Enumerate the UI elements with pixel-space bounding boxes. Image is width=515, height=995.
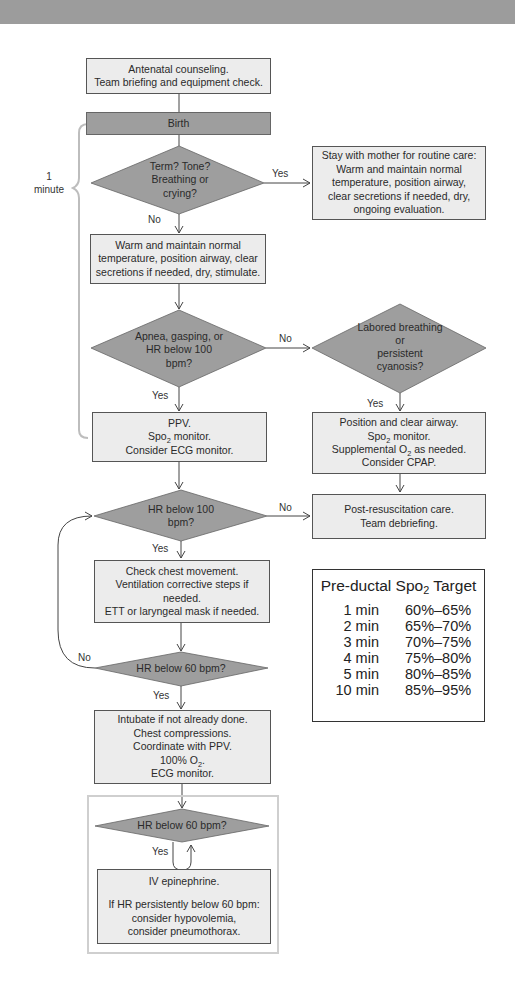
antenatal-counseling-box: Antenatal counseling. Team briefing and … — [86, 58, 271, 94]
box-text: consider pneumothorax. — [128, 925, 241, 938]
box-text: Warm and maintain normal — [336, 163, 462, 176]
decision-text: Apnea, gasping, or — [135, 330, 223, 343]
box-text: Spo2 monitor. — [148, 430, 211, 443]
decision-text: bpm? — [168, 516, 194, 529]
text-part: monitor. — [171, 430, 211, 442]
edge-label-no: No — [78, 652, 91, 663]
position-airway-box: Position and clear airway. Spo2 monitor.… — [312, 412, 486, 474]
decision-text: HR below 60 bpm? — [136, 662, 225, 675]
one-minute-bracket — [73, 124, 88, 438]
box-text: Ventilation corrective steps if — [115, 578, 248, 591]
edge-label-yes: Yes — [152, 846, 168, 857]
decision-apnea: Apnea, gasping, or HR below 100 bpm? — [119, 328, 239, 372]
range-cell: 75%–80% — [379, 650, 471, 666]
text-part: Spo — [367, 430, 386, 442]
time-cell: 5 min — [313, 666, 379, 682]
box-text: Spo2 monitor. — [367, 430, 430, 443]
box-text: Team briefing and equipment check. — [94, 76, 263, 89]
box-text: Antenatal counseling. — [128, 63, 228, 76]
text-part: Supplemental O — [332, 443, 407, 455]
box-text: 100% O2. — [160, 754, 205, 767]
routine-care-box: Stay with mother for routine care: Warm … — [312, 146, 486, 220]
edge-label-no: No — [279, 333, 292, 344]
range-cell: 70%–75% — [379, 634, 471, 650]
box-text: Stay with mother for routine care: — [322, 149, 477, 162]
box-text: Consider ECG monitor. — [126, 444, 234, 457]
check-chest-box: Check chest movement. Ventilation correc… — [94, 560, 270, 623]
ppv-box: PPV. Spo2 monitor. Consider ECG monitor. — [92, 412, 267, 462]
time-cell: 1 min — [313, 602, 379, 618]
decision-labored: Labored breathing or persistent cyanosis… — [345, 318, 455, 376]
warm-stimulate-box: Warm and maintain normal temperature, po… — [90, 234, 266, 284]
box-text: Supplemental O2 as needed. — [332, 443, 466, 456]
box-text: ETT or laryngeal mask if needed. — [105, 605, 259, 618]
box-text: Team debriefing. — [360, 517, 438, 530]
edge-label-yes: Yes — [152, 390, 168, 401]
decision-text: persistent — [377, 347, 423, 360]
box-text: needed. — [163, 592, 201, 605]
box-text: Coordinate with PPV. — [133, 740, 232, 753]
box-text: Check chest movement. — [126, 565, 239, 578]
box-text: ECG monitor. — [151, 767, 214, 780]
birth-box: Birth — [86, 112, 271, 135]
box-text: PPV. — [168, 417, 191, 430]
intubate-compressions-box: Intubate if not already done. Chest comp… — [94, 710, 271, 784]
time-cell: 3 min — [313, 634, 379, 650]
decision-hr60: HR below 60 bpm? — [121, 661, 241, 677]
table-row: 10 min85%–95% — [313, 682, 484, 698]
decision-text: Breathing or — [151, 173, 208, 186]
box-text: If HR persistently below 60 bpm: — [108, 898, 259, 911]
box-text: Chest compressions. — [133, 727, 231, 740]
range-cell: 65%–70% — [379, 618, 471, 634]
epinephrine-box: IV epinephrine. If HR persistently below… — [97, 869, 271, 944]
time-cell: 2 min — [313, 618, 379, 634]
decision-text: or — [395, 334, 404, 347]
box-text: temperature, position airway, — [332, 176, 466, 189]
decision-text: HR below 60 bpm? — [137, 819, 226, 832]
text-part: monitor. — [390, 430, 430, 442]
decision-text: Term? Tone? — [150, 160, 211, 173]
decision-hr100: HR below 100 bpm? — [131, 502, 231, 530]
range-cell: 80%–85% — [379, 666, 471, 682]
table-row: 1 min60%–65% — [313, 602, 484, 618]
time-cell: 4 min — [313, 650, 379, 666]
decision-text: HR below 100 — [146, 343, 212, 356]
edge-label-no: No — [279, 502, 292, 513]
text-part: . — [202, 754, 205, 766]
decision-text: cyanosis? — [377, 360, 424, 373]
text-part: as needed. — [411, 443, 466, 455]
box-text: consider hypovolemia, — [132, 912, 236, 925]
title-part: Pre-ductal Spo — [321, 577, 424, 594]
table-row: 2 min65%–70% — [313, 618, 484, 634]
box-text: IV epinephrine. — [149, 875, 220, 888]
time-cell: 10 min — [313, 682, 379, 698]
table-row: 3 min70%–75% — [313, 634, 484, 650]
text-part: 100% O — [160, 754, 198, 766]
decision-text: crying? — [163, 187, 197, 200]
range-cell: 60%–65% — [379, 602, 471, 618]
bracket-line2: minute — [34, 184, 64, 195]
preductal-spo2-target-table: Pre-ductal Spo2 Target 1 min60%–65% 2 mi… — [312, 569, 485, 722]
edge-label-no: No — [148, 214, 161, 225]
box-text: secretions if needed, dry, stimulate. — [96, 266, 260, 279]
edge-label-yes: Yes — [153, 690, 169, 701]
table-row: 4 min75%–80% — [313, 650, 484, 666]
edge-label-yes: Yes — [152, 543, 168, 554]
box-text: Post-resuscitation care. — [344, 503, 454, 516]
edge-label-yes: Yes — [367, 398, 383, 409]
box-text: Consider CPAP. — [362, 456, 436, 469]
decision-text: bpm? — [166, 357, 192, 370]
box-text: clear secretions if needed, dry, — [328, 190, 470, 203]
text-part: Spo — [148, 430, 167, 442]
box-text: Warm and maintain normal — [115, 239, 241, 252]
decision-hr60-second: HR below 60 bpm? — [122, 818, 242, 834]
range-cell: 85%–95% — [379, 682, 471, 698]
decision-term: Term? Tone? Breathing or crying? — [125, 157, 235, 203]
table-row: 5 min80%–85% — [313, 666, 484, 682]
table-rows: 1 min60%–65% 2 min65%–70% 3 min70%–75% 4… — [313, 602, 484, 698]
bracket-line1: 1 — [46, 171, 52, 182]
box-text: ongoing evaluation. — [353, 203, 444, 216]
decision-text: HR below 100 — [148, 503, 214, 516]
one-minute-label: 1 minute — [28, 170, 70, 196]
box-text: Intubate if not already done. — [117, 713, 247, 726]
